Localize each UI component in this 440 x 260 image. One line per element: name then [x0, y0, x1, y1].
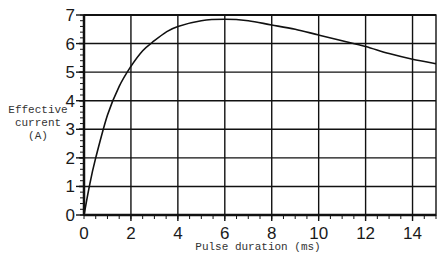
x-tick-label: 14: [403, 224, 422, 243]
plot-frame: [84, 15, 436, 215]
effective-current-chart: 01234567 02468101214 Effectivecurrent(A)…: [0, 0, 440, 260]
x-tick-label: 12: [356, 224, 375, 243]
x-tick-label: 2: [126, 224, 135, 243]
y-tick-label: 5: [66, 63, 75, 82]
y-axis-title-line: (A): [28, 130, 48, 142]
y-tick-label: 3: [66, 120, 75, 139]
y-tick-label: 6: [66, 35, 75, 54]
x-tick-label: 0: [79, 224, 88, 243]
minor-ticks: [80, 15, 436, 219]
y-tick-label: 0: [66, 206, 75, 225]
x-axis-title: Pulse duration (ms): [195, 241, 320, 253]
y-tick-label: 2: [66, 149, 75, 168]
chart-grid: [79, 15, 436, 221]
current-curve-line: [84, 19, 436, 215]
y-tick-label: 7: [66, 6, 75, 25]
y-axis-title-line: Effective: [8, 104, 67, 116]
y-axis-title-line: current: [15, 117, 61, 129]
y-tick-label: 1: [66, 177, 75, 196]
x-tick-label: 4: [173, 224, 182, 243]
chart-axes: [76, 15, 436, 215]
y-axis-title: Effectivecurrent(A): [8, 104, 67, 142]
